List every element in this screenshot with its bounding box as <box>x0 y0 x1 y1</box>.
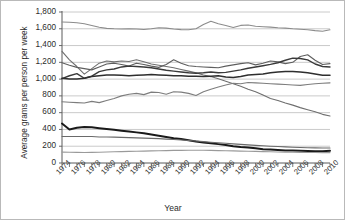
data-series-line <box>62 21 330 31</box>
plot-area <box>0 0 346 221</box>
data-series-line <box>62 51 330 116</box>
data-series-line <box>62 82 330 103</box>
line-chart: Average grams per person per week Year 0… <box>0 0 346 221</box>
